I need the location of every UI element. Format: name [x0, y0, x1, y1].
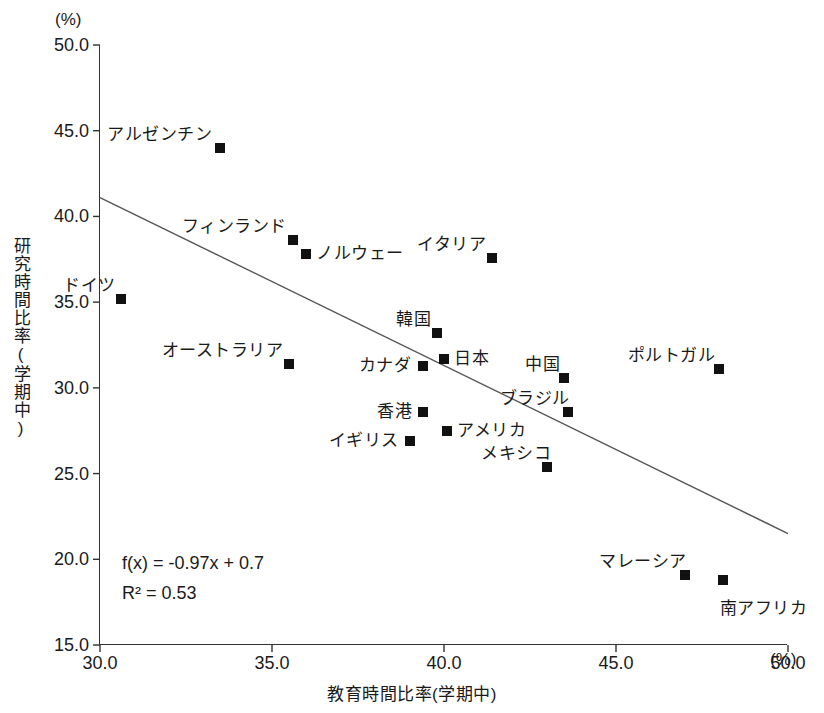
data-point-label: オーストラリア: [162, 342, 284, 359]
data-point-label: アルゼンチン: [107, 126, 212, 143]
y-axis-tick-label: 50.0: [54, 35, 89, 56]
data-point-label: 中国: [525, 356, 560, 373]
y-axis-tick-label: 40.0: [54, 206, 89, 227]
data-point-label: ノルウェー: [316, 245, 404, 262]
data-point-label: イギリス: [329, 432, 399, 449]
data-point-label: 南アフリカ: [720, 600, 808, 617]
x-axis-title: 教育時間比率(学期中): [0, 680, 824, 705]
x-axis-tick-label: 45.0: [598, 653, 633, 674]
y-axis-tick-label: 20.0: [54, 549, 89, 570]
data-point-label: 韓国: [396, 311, 431, 328]
data-point-marker[interactable]: [714, 364, 724, 374]
x-axis-unit-label: (%): [770, 650, 796, 670]
data-point-label: 日本: [454, 350, 489, 367]
data-point-marker[interactable]: [432, 328, 442, 338]
data-point-marker[interactable]: [563, 407, 573, 417]
y-axis-title: 研究時間比率(学期中): [6, 237, 32, 439]
scatter-chart-figure: (%) 研究時間比率(学期中) 50.045.040.035.030.025.0…: [0, 0, 824, 713]
x-axis-tick-label: 30.0: [82, 653, 117, 674]
y-axis-tick-label: 30.0: [54, 377, 89, 398]
trendline-annotation: f(x) = -0.97x + 0.7 R² = 0.53: [122, 548, 264, 608]
data-point-label: アメリカ: [457, 422, 526, 439]
data-point-label: 香港: [377, 403, 412, 420]
y-axis-tick-label: 45.0: [54, 120, 89, 141]
data-point-marker[interactable]: [288, 235, 298, 245]
data-point-marker[interactable]: [405, 436, 415, 446]
data-point-marker[interactable]: [215, 143, 225, 153]
x-axis-tick-label: 35.0: [254, 653, 289, 674]
y-axis-unit-label: (%): [55, 10, 81, 30]
data-point-marker[interactable]: [680, 570, 690, 580]
data-point-marker[interactable]: [284, 359, 294, 369]
data-point-marker[interactable]: [116, 294, 126, 304]
data-point-label: カナダ: [359, 357, 412, 374]
data-point-marker[interactable]: [442, 426, 452, 436]
data-point-label: ドイツ: [63, 277, 116, 294]
data-point-marker[interactable]: [559, 373, 569, 383]
y-axis-tick-label: 35.0: [54, 292, 89, 313]
data-point-label: メキシコ: [481, 445, 551, 462]
data-point-marker[interactable]: [487, 253, 497, 263]
plot-area: 50.045.040.035.030.025.020.015.0 30.035.…: [99, 45, 787, 645]
data-point-marker[interactable]: [418, 407, 428, 417]
data-point-label: ポルトガル: [628, 347, 716, 364]
y-axis-tick-label: 25.0: [54, 463, 89, 484]
data-point-marker[interactable]: [301, 249, 311, 259]
x-axis-tick-label: 40.0: [426, 653, 461, 674]
data-point-label: マレーシア: [599, 553, 687, 570]
trendline-r-squared: R² = 0.53: [122, 578, 264, 608]
data-point-marker[interactable]: [718, 575, 728, 585]
data-point-label: フィンランド: [182, 218, 287, 235]
data-point-label: イタリア: [417, 236, 486, 253]
data-point-label: ブラジル: [500, 390, 570, 407]
trendline-equation: f(x) = -0.97x + 0.7: [122, 548, 264, 578]
data-point-marker[interactable]: [418, 361, 428, 371]
data-point-marker[interactable]: [542, 462, 552, 472]
data-point-marker[interactable]: [439, 354, 449, 364]
